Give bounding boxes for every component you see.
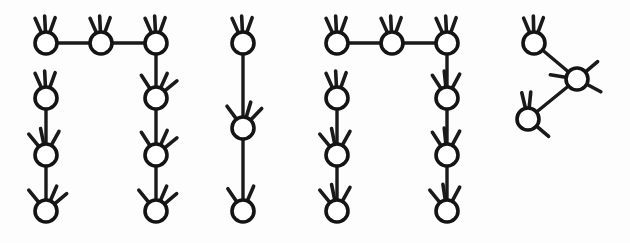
molecular-diagram-svg <box>0 0 630 243</box>
atom-node-node-right-middle <box>145 87 167 109</box>
atom-node-node-left-bottom <box>35 200 57 222</box>
figure-canvas: Molecular skeleton fragments Hand-drawn … <box>0 0 630 243</box>
atom-node-node-top <box>232 32 254 54</box>
atom-node-node-right-lower <box>436 144 458 166</box>
atom-node-node-left-bottom <box>326 200 348 222</box>
atom-node-node-left-middle <box>326 144 348 166</box>
atom-node-node-top-left <box>35 32 57 54</box>
atom-node-node-bottom <box>232 200 254 222</box>
atom-node-node-upper-left <box>523 32 545 54</box>
atom-node-node-left-upper <box>326 87 348 109</box>
atom-node-node-center <box>566 68 588 90</box>
atom-node-node-lower-left <box>517 108 539 130</box>
atom-node-node-right-lower <box>145 144 167 166</box>
atom-node-node-right-middle <box>436 87 458 109</box>
atom-node-node-top-right-corner <box>145 32 167 54</box>
atom-node-node-top-left <box>326 32 348 54</box>
atom-node-node-top-right-corner <box>436 32 458 54</box>
atom-node-node-right-bottom <box>436 200 458 222</box>
atom-node-node-top-middle <box>90 32 112 54</box>
atom-node-node-left-upper <box>35 87 57 109</box>
atom-node-node-middle <box>232 117 254 139</box>
atom-node-node-left-middle <box>35 144 57 166</box>
atom-node-node-top-middle <box>381 32 403 54</box>
atom-node-node-right-bottom <box>145 200 167 222</box>
